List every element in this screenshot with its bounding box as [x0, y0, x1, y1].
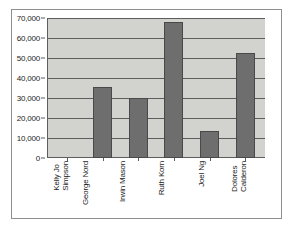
bar[interactable] [236, 53, 255, 158]
y-axis-tick-label: 0 [36, 154, 40, 163]
y-axis-tick-label: 70,000 [17, 14, 40, 23]
x-axis-tick-label: Ruth Korn [157, 161, 166, 195]
y-axis-tick-label: 10,000 [17, 134, 40, 143]
y-axis-tick-label: 20,000 [17, 114, 40, 123]
x-axis-tick-label: Irwin Mason [118, 161, 127, 202]
x-axis: Kelly JoSimpsonGeorge NordIrwin MasonRut… [47, 161, 265, 219]
x-axis-label-slot: George Nord [85, 161, 121, 219]
x-axis-tick-label: Kelly JoSimpson [52, 161, 70, 191]
y-axis-tick-label: 30,000 [17, 94, 40, 103]
y-axis-tick-label: 50,000 [17, 54, 40, 63]
x-axis-tick-label: DoloresCalderon [230, 161, 248, 192]
bar[interactable] [129, 98, 148, 158]
bar-chart: 010,00020,00030,00040,00050,00060,00070,… [12, 10, 283, 220]
x-axis-label-slot: Irwin Mason [120, 161, 156, 219]
bar-slot [120, 18, 156, 158]
y-axis: 010,00020,00030,00040,00050,00060,00070,… [12, 18, 45, 158]
y-axis-tick-mark [41, 18, 45, 19]
bar-series [47, 18, 265, 158]
bar[interactable] [200, 131, 219, 158]
x-axis-tick-label: Joel Ng [197, 161, 206, 187]
bar[interactable] [164, 22, 183, 158]
figure-frame: 010,00020,00030,00040,00050,00060,00070,… [11, 9, 282, 219]
y-axis-tick-mark [41, 158, 45, 159]
y-axis-tick-mark [41, 78, 45, 79]
bar-slot [227, 18, 263, 158]
y-axis-tick-label: 40,000 [17, 74, 40, 83]
y-axis-tick-mark [41, 38, 45, 39]
y-axis-tick-label: 60,000 [17, 34, 40, 43]
bar-slot [192, 18, 228, 158]
y-axis-tick-mark [41, 118, 45, 119]
x-axis-label-slot: Kelly JoSimpson [49, 161, 85, 219]
x-axis-label-slot: Ruth Korn [156, 161, 192, 219]
y-axis-tick-mark [41, 58, 45, 59]
plot-area [47, 18, 265, 158]
x-axis-tick-label: George Nord [80, 161, 89, 205]
bar[interactable] [93, 87, 112, 158]
y-axis-tick-mark [41, 138, 45, 139]
bar-slot [49, 18, 85, 158]
y-axis-tick-mark [41, 98, 45, 99]
bar-slot [85, 18, 121, 158]
x-axis-label-slot: Joel Ng [192, 161, 228, 219]
x-axis-label-slot: DoloresCalderon [227, 161, 263, 219]
bar-slot [156, 18, 192, 158]
